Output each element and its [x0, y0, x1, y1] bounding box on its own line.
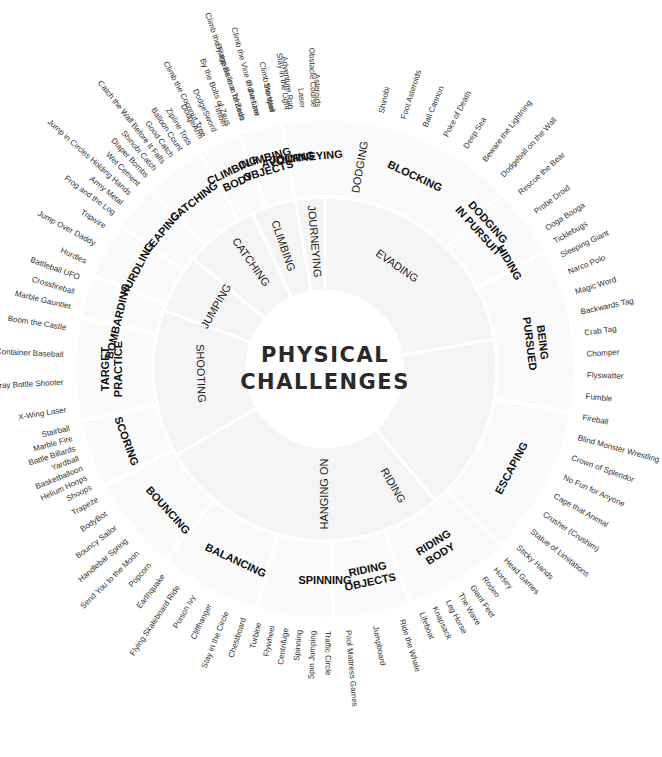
leaf-item: Milk Container Baseball — [0, 346, 64, 359]
leaf-item: Handlebar Spring — [76, 537, 129, 585]
leaf-item: Poison Ivy — [171, 593, 197, 629]
leaf-item: X-Wing Laser — [18, 405, 68, 422]
ring-layer — [75, 119, 575, 619]
leaf-item: Boom the Castle — [7, 314, 67, 332]
leaf-item: Magic Word — [574, 275, 617, 296]
leaf-item: Laser — [296, 88, 307, 109]
leaf-item: Fumble — [585, 392, 613, 404]
leaf-item: Turbine — [248, 621, 264, 650]
leaf-item: Chomper — [586, 348, 620, 359]
leaf-item: Chestboard — [227, 617, 248, 659]
leaf-item: Deep Sea — [462, 115, 489, 150]
leaf-item: Hurdles — [59, 246, 88, 266]
leaf-item: Lifeboat — [417, 611, 436, 642]
physical-challenges-diagram: EVADINGDODGINGRIDINGHANGING ONSHOOTINGJU… — [0, 0, 662, 757]
leaf-item: Ride the Whale — [398, 618, 423, 673]
leaf-item: Obstacle Course — [307, 47, 319, 107]
leaf-item: Foot Asteroids — [399, 69, 423, 120]
category-label-line: SHOOTING — [194, 344, 208, 403]
category-label: SHOOTING — [194, 344, 208, 403]
leaf-item: Jumpboard — [371, 625, 387, 666]
leaf-item: Traffic Circle — [323, 631, 332, 676]
leaf-item: Flywheel — [262, 625, 277, 658]
leaf-item: Fireball — [582, 413, 610, 427]
leaf-item: Centrifuge — [276, 627, 290, 665]
leaf-item: Crab Tag — [584, 324, 617, 337]
center-disk — [247, 291, 403, 447]
leaf-item: Spray Bottle Shooter — [0, 378, 64, 391]
radial-diagram-canvas: EVADINGDODGINGRIDINGHANGING ONSHOOTINGJU… — [0, 0, 662, 757]
subcategory-label-line: SPINNING — [298, 574, 351, 586]
leaf-item: Jump in Circles Holding Hands — [46, 117, 133, 197]
leaf-item: Poke of Death — [442, 89, 473, 138]
leaf-item: Pool Mattress Games — [344, 630, 360, 707]
leaf-item: Narco Polo — [567, 253, 608, 276]
leaf-item: Ball Cannon — [421, 85, 446, 129]
leaf-item: Spin Jumping — [307, 631, 318, 680]
leaf-item: Cliffhanger — [189, 602, 214, 641]
category-label: HANGING ON — [318, 459, 330, 530]
title-line-1: PHYSICAL — [261, 343, 389, 367]
leaf-item: Spinning — [292, 629, 304, 661]
leaf-item: Shinobi — [377, 86, 392, 114]
subcategory-label: SPINNING — [298, 574, 351, 586]
leaf-item: Backwards Tag — [580, 296, 635, 316]
leaf-item: Flyswatter — [587, 371, 624, 381]
title-line-2: CHALLENGES — [240, 370, 410, 394]
